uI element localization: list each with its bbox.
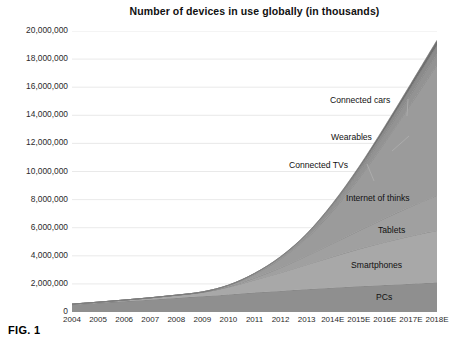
y-axis-tick-label: 8,000,000 (4, 195, 68, 204)
series-annotation-label: Tablets (378, 225, 405, 235)
x-axis-tick-label: 2011 (246, 315, 263, 324)
series-annotation-label: Wearables (331, 132, 372, 142)
y-axis-tick-label: 16,000,000 (4, 82, 68, 91)
y-axis-tick-label: 0 (4, 307, 68, 316)
x-axis-tick-label: 2009 (193, 315, 211, 324)
x-axis-tick-label: 2004 (63, 315, 81, 324)
x-axis-tick-label: 2006 (115, 315, 133, 324)
series-annotation-label: Internet of thinks (346, 193, 410, 203)
x-axis-tick-label: 2008 (167, 315, 185, 324)
y-axis-tick-label: 14,000,000 (4, 110, 68, 119)
x-axis-tick-label: 2014E (321, 315, 344, 324)
x-axis-tick-label: 2016E (373, 315, 396, 324)
series-annotation-label: Connected cars (330, 95, 390, 105)
series-annotation-label: PCs (376, 292, 392, 302)
y-axis: 02,000,0004,000,0006,000,0008,000,00010,… (0, 31, 68, 312)
x-axis-tick-label: 2017E (399, 315, 422, 324)
figure-container: Number of devices in use globally (in th… (0, 0, 459, 343)
y-axis-tick-label: 20,000,000 (4, 26, 68, 35)
y-axis-tick-label: 18,000,000 (4, 54, 68, 63)
x-axis-tick-label: 2010 (220, 315, 238, 324)
y-axis-tick-label: 10,000,000 (4, 167, 68, 176)
x-axis-tick-label: 2012 (272, 315, 290, 324)
series-annotation-label: Smartphones (351, 260, 402, 270)
x-axis: 2004200520062007200820092010201120122013… (72, 315, 437, 329)
x-axis-tick-label: 2018E (425, 315, 448, 324)
y-axis-tick-label: 12,000,000 (4, 138, 68, 147)
x-axis-tick-label: 2005 (89, 315, 107, 324)
y-axis-tick-label: 4,000,000 (4, 251, 68, 260)
y-axis-tick-label: 2,000,000 (4, 279, 68, 288)
figure-caption: FIG. 1 (8, 324, 40, 336)
chart-title: Number of devices in use globally (in th… (72, 5, 437, 17)
x-axis-tick-label: 2007 (141, 315, 159, 324)
y-axis-tick-label: 6,000,000 (4, 223, 68, 232)
x-axis-tick-label: 2013 (298, 315, 316, 324)
series-areas (72, 40, 437, 312)
x-axis-tick-label: 2015E (347, 315, 370, 324)
series-annotation-label: Connected TVs (289, 160, 348, 170)
